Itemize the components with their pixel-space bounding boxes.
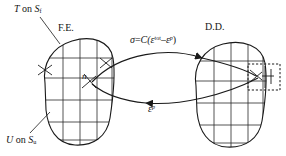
- displacement-leader-line: [30, 112, 50, 133]
- fe-domain-group: [30, 17, 122, 152]
- dd-detail-dashed-box: [248, 64, 280, 90]
- plastic-strain-label: εp: [148, 104, 155, 114]
- fe-node-label: n: [82, 72, 87, 81]
- stiffness-open: C(: [141, 34, 151, 45]
- diagram-canvas: [0, 0, 286, 156]
- displacement-boundary-label: U on Su: [6, 135, 36, 146]
- closing-paren: ): [173, 34, 176, 45]
- traction-surface-subscript: f: [40, 7, 42, 14]
- dd-domain-label: D.D.: [205, 22, 224, 32]
- traction-boundary-label: T on Sf: [14, 4, 42, 15]
- traction-leader-line: [40, 17, 60, 44]
- fe-dd-coupling-figure: T on Sf F.E. D.D. σ=C(εtot–εp) εp n U on…: [0, 0, 286, 156]
- dd-domain-group: [190, 32, 280, 154]
- plastic-strain-arrow-bottom: [146, 78, 258, 103]
- stress-arrow-top: [92, 53, 202, 82]
- fe-domain-label: F.E.: [58, 23, 74, 33]
- fe-mesh-grid: [40, 30, 122, 152]
- stress-equation-label: σ=C(εtot–εp): [130, 35, 176, 45]
- coupling-arrows: [92, 53, 258, 104]
- plastic-strain-superscript: p: [152, 104, 155, 110]
- dd-dislocation-detail: [250, 66, 274, 88]
- displacement-on-text: on: [16, 134, 26, 145]
- displacement-surface-subscript: u: [33, 138, 36, 145]
- dd-mesh-grid: [190, 32, 274, 154]
- fe-edge-tick: [100, 58, 112, 68]
- traction-on-text: on: [22, 3, 32, 14]
